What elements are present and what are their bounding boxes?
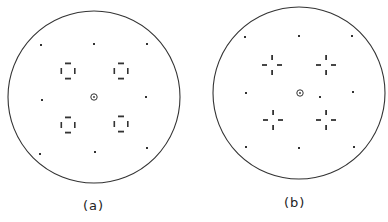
spot-group-cross [316, 55, 336, 75]
spot-dot [351, 35, 353, 37]
spot-bar [127, 121, 129, 127]
spot-bar [74, 122, 76, 128]
spot-group-square-ring [114, 63, 129, 80]
center-dot-icon [93, 96, 95, 98]
spot-group-square-ring [61, 63, 76, 80]
spot-bar [65, 132, 71, 134]
diffraction-figure [0, 0, 388, 222]
spot-bar [65, 117, 71, 119]
spot-bar [61, 122, 63, 128]
spot-group-cross [316, 110, 336, 130]
spot-dot [41, 99, 43, 101]
spot-bar [118, 116, 124, 118]
spot-bar [271, 70, 273, 75]
spot-bar [331, 119, 336, 121]
center-dot-icon [299, 92, 301, 94]
spot-bar [325, 110, 327, 115]
spot-dot [353, 146, 355, 148]
spot-bar [271, 55, 273, 60]
spot-dot [245, 146, 247, 148]
spot-bar [325, 125, 327, 130]
spot-group-square-ring [114, 116, 129, 133]
spot-bar [272, 125, 274, 130]
spot-bar [262, 64, 267, 66]
spot-bar [331, 64, 336, 66]
spot-bar [127, 68, 129, 74]
spot-bar [325, 55, 327, 60]
spot-bar [74, 68, 76, 74]
spot-bar [316, 64, 321, 66]
spot-bar [325, 70, 327, 75]
boundary-circle [213, 7, 385, 179]
panel-b [213, 7, 385, 179]
spot-dot [352, 91, 354, 93]
spot-bar [272, 110, 274, 115]
spot-group-cross [263, 110, 283, 130]
spot-dot [93, 43, 95, 45]
spot-dot [39, 153, 41, 155]
spot-dot [298, 147, 300, 149]
spot-dot [245, 92, 247, 94]
spot-bar [277, 64, 282, 66]
spot-dot [94, 151, 96, 153]
spot-bar [118, 78, 124, 80]
spot-bar [263, 119, 268, 121]
spot-bar [316, 119, 321, 121]
spot-bar [118, 131, 124, 133]
spot-bar [114, 68, 116, 74]
spot-group-cross [262, 55, 282, 75]
spot-bar [65, 78, 71, 80]
spot-bar [114, 121, 116, 127]
caption-b: (b) [284, 195, 305, 210]
spot-bar [61, 68, 63, 74]
spot-bar [278, 119, 283, 121]
spot-group-square-ring [61, 117, 76, 134]
spot-dot [319, 96, 321, 98]
spot-bar [118, 63, 124, 65]
spot-bar [65, 63, 71, 65]
spot-dot [298, 35, 300, 37]
spot-dot [40, 44, 42, 46]
spot-dot [146, 147, 148, 149]
spot-dot [145, 96, 147, 98]
spot-dot [146, 43, 148, 45]
spot-dot [244, 36, 246, 38]
caption-a: (a) [83, 198, 104, 213]
panel-a [8, 11, 180, 183]
